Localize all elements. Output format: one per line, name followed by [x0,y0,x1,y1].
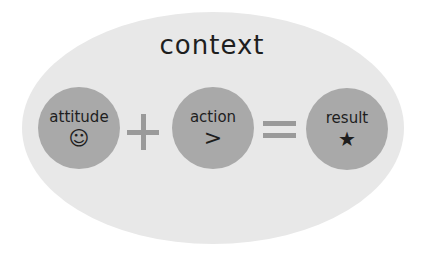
attitude-label: attitude [38,108,120,126]
result-label: result [306,109,388,127]
smiley-icon: ☺ [38,127,120,149]
plus-icon-vertical [141,114,146,150]
result-node: result ★ [306,88,388,170]
star-icon: ★ [306,128,388,150]
equals-icon-top [263,121,296,126]
attitude-node: attitude ☺ [38,87,120,169]
context-title: context [0,30,424,60]
greater-than-icon: > [172,127,254,149]
action-node: action > [172,87,254,169]
equals-icon-bottom [263,133,296,138]
action-label: action [172,108,254,126]
